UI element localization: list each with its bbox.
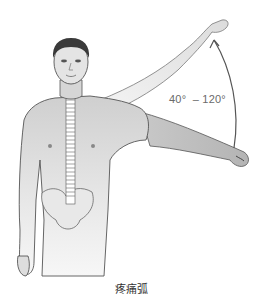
abducted-arm bbox=[140, 112, 249, 166]
figure-caption: 疼痛弧 bbox=[0, 280, 263, 296]
painful-arc-diagram bbox=[0, 0, 263, 301]
spine bbox=[66, 92, 75, 204]
head bbox=[53, 38, 89, 99]
hanging-hand bbox=[17, 256, 29, 276]
torso bbox=[19, 96, 148, 276]
angle-range-label: 40° – 120° bbox=[169, 93, 226, 105]
